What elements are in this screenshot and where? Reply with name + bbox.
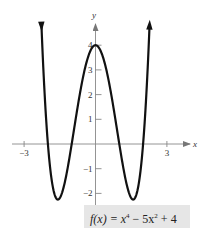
function-graph: x y −33−2−11234 [0,0,208,237]
y-tick-label: 1 [88,114,93,124]
curve-arrow-left-icon [38,22,44,32]
curve-arrow-right-icon [146,20,152,30]
y-tick-label: −1 [83,164,93,174]
function-label: f(x) = x4 − 5x2 + 4 [90,207,177,228]
function-label-prefix: f(x) = x [90,212,126,226]
function-label-mid: − 5x [130,212,155,226]
x-tick-label: 3 [165,148,170,158]
y-axis-label: y [91,10,96,20]
y-tick-label: −2 [83,188,93,198]
y-tick-label: 3 [88,65,93,75]
x-axis-label: x [192,139,197,149]
y-tick-label: 2 [88,90,93,100]
function-label-suffix: + 4 [158,212,177,226]
x-tick-label: −3 [19,148,29,158]
